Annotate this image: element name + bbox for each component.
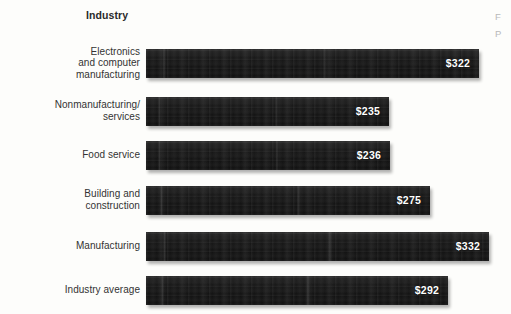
bar-value-label: $235 [356,97,380,126]
category-label-line: services [0,111,140,123]
category-label: Food service [0,149,140,161]
category-label: Manufacturing [0,240,140,252]
bar[interactable] [146,141,390,170]
bar-row[interactable]: Manufacturing$332 [0,223,511,261]
bar-chart-figure: Industry Electronicsand computermanufact… [0,0,511,314]
bar-value-label: $322 [446,49,470,78]
bar-value-label: $236 [357,141,381,170]
bar-value-label: $292 [415,276,439,305]
bar-track: $332 [146,232,489,261]
category-label: Industry average [0,284,140,296]
bar-track: $322 [146,49,479,78]
bar-row[interactable]: Food service$236 [0,132,511,170]
bar-row[interactable]: Industry average$292 [0,267,511,305]
bar-track: $275 [146,186,430,215]
category-label-line: Food service [0,149,140,161]
cropped-margin-note: F P [495,8,511,42]
category-label-line: construction [0,200,140,212]
bar-value-label: $332 [456,232,480,261]
category-label-line: Nonmanufacturing/ [0,99,140,111]
margin-note-line-2: P [495,25,511,42]
bar-value-label: $275 [397,186,421,215]
bar-row[interactable]: Nonmanufacturing/services$235 [0,88,511,126]
plot-area: Electronicsand computermanufacturing$322… [0,40,511,314]
category-label: Building andconstruction [0,188,140,211]
category-label: Nonmanufacturing/services [0,99,140,122]
margin-note-line-1: F [495,8,511,25]
bar-track: $236 [146,141,390,170]
category-label-line: Building and [0,188,140,200]
bar-track: $235 [146,97,389,126]
category-label: Electronicsand computermanufacturing [0,46,140,81]
bar[interactable] [146,276,448,305]
bar[interactable] [146,97,389,126]
bar[interactable] [146,49,479,78]
bar-track: $292 [146,276,448,305]
bar[interactable] [146,232,489,261]
category-label-line: Electronics [0,46,140,58]
category-label-line: and computer [0,57,140,69]
category-label-line: Manufacturing [0,240,140,252]
category-label-line: Industry average [0,284,140,296]
column-header-industry: Industry [86,9,128,21]
bar-row[interactable]: Electronicsand computermanufacturing$322 [0,40,511,78]
category-label-line: manufacturing [0,69,140,81]
bar[interactable] [146,186,430,215]
bar-row[interactable]: Building andconstruction$275 [0,177,511,215]
